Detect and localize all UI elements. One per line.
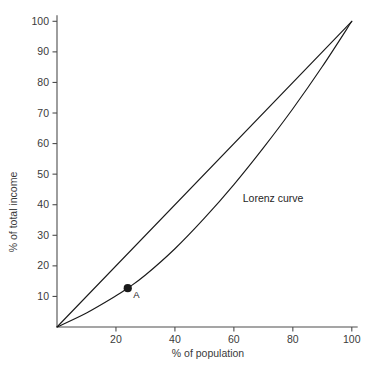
point-a-marker xyxy=(124,284,132,292)
point-a-label: A xyxy=(133,289,140,300)
series-line-of-equality xyxy=(57,21,352,327)
data-points: A xyxy=(124,284,141,300)
y-tick-label: 10 xyxy=(37,290,49,302)
y-tick-label: 80 xyxy=(37,76,49,88)
y-tick-label: 60 xyxy=(37,137,49,149)
x-tick-label: 60 xyxy=(228,333,240,345)
x-tick-label: 100 xyxy=(343,333,361,345)
y-tick-label: 50 xyxy=(37,168,49,180)
x-tick-label: 40 xyxy=(169,333,181,345)
data-series xyxy=(57,21,352,327)
y-tick-label: 70 xyxy=(37,107,49,119)
x-axis-title: % of population xyxy=(172,347,245,359)
y-tick-label: 100 xyxy=(31,15,49,27)
tick-labels: 10203040506070809010020406080100 xyxy=(31,15,360,345)
y-tick-label: 90 xyxy=(37,45,49,57)
y-axis-title: % of total income xyxy=(7,172,19,253)
chart-canvas: 10203040506070809010020406080100 A Loren… xyxy=(0,0,373,370)
lorenz-curve-chart: 10203040506070809010020406080100 A Loren… xyxy=(0,0,373,370)
x-tick-label: 80 xyxy=(287,333,299,345)
y-tick-label: 40 xyxy=(37,198,49,210)
lorenz-curve-label: Lorenz curve xyxy=(243,192,304,204)
y-tick-label: 30 xyxy=(37,229,49,241)
x-tick-label: 20 xyxy=(110,333,122,345)
chart-annotations: Lorenz curve xyxy=(243,192,304,204)
y-tick-label: 20 xyxy=(37,259,49,271)
